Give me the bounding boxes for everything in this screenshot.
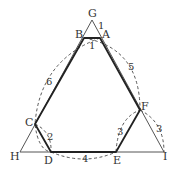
label-e: E	[113, 154, 121, 167]
length-fi: 3	[156, 123, 162, 134]
label-h: H	[10, 150, 20, 163]
label-b: B	[75, 28, 83, 41]
length-cd: 2	[47, 131, 53, 142]
label-g: G	[88, 7, 97, 20]
label-d: D	[44, 154, 53, 167]
label-f: F	[141, 100, 149, 113]
dashed-arc-left	[35, 38, 100, 152]
length-af: 5	[128, 61, 134, 72]
length-bc: 6	[46, 76, 52, 87]
length-de: 4	[82, 153, 88, 164]
label-c: C	[25, 116, 33, 129]
length-ga: 1	[98, 20, 104, 31]
length-ef: 3	[117, 126, 123, 137]
length-ab: 1	[89, 40, 95, 51]
geometry-diagram: G B A C D E F H I 1 1 5 6 2 4 3 3	[0, 0, 178, 176]
label-i: I	[163, 150, 167, 163]
